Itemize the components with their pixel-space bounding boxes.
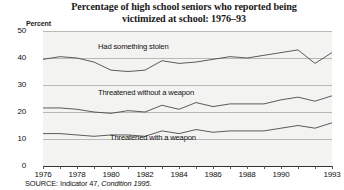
x-tick-mark-1986: [213, 166, 214, 169]
x-tick-label-1990: 1990: [273, 170, 290, 179]
x-tick-label-1978: 1978: [69, 170, 86, 179]
x-tick-label-1976: 1976: [35, 170, 52, 179]
x-tick-mark-1980: [111, 166, 112, 169]
x-tick-label-1986: 1986: [205, 170, 222, 179]
x-tick-mark-1976: [43, 166, 44, 169]
x-tick-mark-1988: [247, 166, 248, 169]
y-axis-unit-label: Percent: [26, 20, 51, 27]
chart-title-line-2: victimized at school: 1976–93: [34, 13, 334, 25]
x-tick-mark-1989: [264, 166, 265, 169]
source-italic: Condition 1995: [101, 179, 149, 188]
x-tick-mark-1978: [77, 166, 78, 169]
chart-title: Percentage of high school seniors who re…: [34, 1, 334, 24]
series-lines: [43, 31, 332, 166]
x-tick-mark-1985: [196, 166, 197, 169]
x-tick-mark-1993: [332, 166, 333, 169]
y-tick-label-30: 30: [0, 80, 26, 89]
data-line-threatened-without-a-weapon: [43, 96, 332, 114]
x-tick-mark-1983: [162, 166, 163, 169]
x-tick-mark-1981: [128, 166, 129, 169]
x-tick-label-1982: 1982: [137, 170, 154, 179]
x-tick-label-1988: 1988: [239, 170, 256, 179]
x-tick-mark-1977: [60, 166, 61, 169]
y-tick-label-0: 0: [0, 161, 26, 170]
chart-page: Percentage of high school seniors who re…: [0, 0, 344, 190]
data-line-had-something-stolen: [43, 50, 332, 72]
chart-title-line-1: Percentage of high school seniors who re…: [71, 1, 297, 12]
series-label-threatened-without-weapon: Threatened without a weapon: [98, 88, 194, 97]
x-tick-label-1993: 1993: [324, 170, 341, 179]
x-axis-line: [43, 166, 332, 167]
x-tick-mark-1984: [179, 166, 180, 169]
x-tick-label-1984: 1984: [171, 170, 188, 179]
y-tick-label-10: 10: [0, 134, 26, 143]
y-tick-label-40: 40: [0, 53, 26, 62]
source-suffix: .: [150, 179, 152, 188]
x-tick-mark-1987: [230, 166, 231, 169]
plot-area: [43, 31, 332, 166]
series-label-threatened-with-weapon: Threatened with a weapon: [110, 133, 196, 142]
x-tick-mark-1990: [281, 166, 282, 169]
x-tick-mark-1982: [145, 166, 146, 169]
x-tick-label-1980: 1980: [103, 170, 120, 179]
y-tick-label-20: 20: [0, 107, 26, 116]
source-prefix: SOURCE: Indicator 47,: [25, 179, 101, 188]
plot-inner: [43, 31, 332, 166]
x-tick-mark-1991: [298, 166, 299, 169]
x-tick-mark-1992: [315, 166, 316, 169]
source-note: SOURCE: Indicator 47, Condition 1995.: [25, 179, 152, 188]
series-label-had-something-stolen: Had something stolen: [98, 42, 168, 51]
y-tick-label-50: 50: [0, 26, 26, 35]
x-tick-mark-1979: [94, 166, 95, 169]
